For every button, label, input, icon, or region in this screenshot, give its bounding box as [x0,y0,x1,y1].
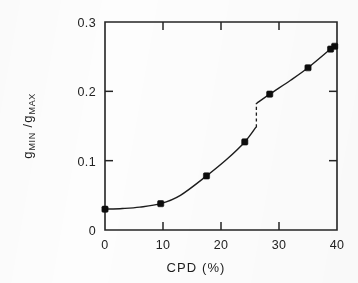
data-point-3 [203,173,209,179]
y-tick-label-0: 0 [89,224,96,238]
figure-screenshot: 0.3 0.2 0.1 0 0 10 20 30 40 CPD (%) gMIN… [0,0,358,283]
data-point-6 [305,65,311,71]
y-tick-label-0.1: 0.1 [77,155,96,169]
y-tick-label-0.3: 0.3 [77,16,96,30]
x-tick-label-30: 30 [272,238,287,252]
y-axis-title-sep: /g [20,114,35,132]
svg-text:gMIN /gMAX: gMIN /gMAX [20,93,37,159]
y-axis-title-sub2: MAX [27,93,37,114]
plot-frame [105,22,337,230]
y-tick-labels: 0.3 0.2 0.1 0 [77,16,96,238]
x-axis-title: CPD (%) [167,260,226,275]
y-axis-title-main: g [20,151,35,159]
x-tick-labels: 0 10 20 30 40 [101,238,344,252]
data-point-8 [332,43,338,49]
x-tick-label-20: 20 [214,238,229,252]
data-point-5 [267,91,273,97]
y-axis-title: gMIN /gMAX [20,93,37,159]
x-axis-ticks [163,22,279,230]
data-markers [102,43,338,212]
x-tick-label-10: 10 [156,238,171,252]
x-tick-label-40: 40 [330,238,345,252]
y-axis-title-sub1: MIN [27,132,37,150]
data-point-2 [158,201,164,207]
x-tick-label-0: 0 [101,238,108,252]
chart-figure: 0.3 0.2 0.1 0 0 10 20 30 40 CPD (%) gMIN… [0,0,358,283]
data-point-1 [102,206,108,212]
y-axis-ticks [105,91,337,160]
data-point-4 [242,139,248,145]
curve-lower [105,127,256,209]
y-tick-label-0.2: 0.2 [77,85,96,99]
